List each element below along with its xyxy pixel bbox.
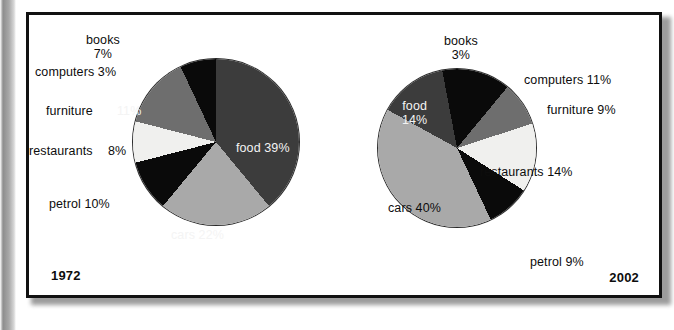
slice-label-food-name-2002: food: [402, 99, 427, 113]
slice-label-books-1972: books 7%: [86, 33, 120, 61]
slice-label-computers-1972: computers 3%: [35, 65, 116, 79]
slice-label-food-value-2002: 14%: [402, 113, 427, 127]
slice-label-furniture-value-1972: 11%: [117, 104, 141, 118]
slice-label-books-value-1972: 7%: [86, 47, 120, 61]
slice-label-furniture-2002: furniture 9%: [547, 103, 616, 117]
slice-label-restaurants-2002: restaurants 14%: [480, 165, 573, 179]
figure-root: books 7% computers 3% furniture 11% rest…: [0, 0, 674, 330]
slice-label-restaurants-value-1972: 8%: [108, 144, 126, 158]
slice-label-books-name-1972: books: [86, 33, 120, 47]
slice-label-food-2002: food 14%: [402, 99, 427, 127]
slice-label-computers-2002: computers 11%: [524, 73, 611, 87]
slice-label-furniture-1972: furniture: [46, 104, 93, 118]
slice-label-books-value-2002: 3%: [444, 48, 478, 62]
chart-pane-2002: books 3% computers 11% furniture 9% rest…: [344, 15, 659, 295]
slice-label-petrol-1972: petrol 10%: [49, 197, 110, 211]
slice-label-petrol-2002: petrol 9%: [530, 255, 584, 269]
slice-label-books-name-2002: books: [444, 34, 478, 48]
chart-pane-1972: books 7% computers 3% furniture 11% rest…: [29, 15, 344, 295]
slice-label-food-1972: food 39%: [236, 141, 290, 155]
year-label-1972: 1972: [51, 268, 81, 283]
slice-label-restaurants-1972: restaurants: [29, 144, 93, 158]
page-gutter-strip: [0, 0, 16, 330]
slice-label-books-2002: books 3%: [444, 34, 478, 62]
year-label-2002: 2002: [609, 270, 639, 285]
figure-frame: books 7% computers 3% furniture 11% rest…: [26, 12, 662, 298]
slice-label-cars-1972: cars 22%: [171, 228, 224, 242]
slice-label-cars-2002: cars 40%: [388, 201, 441, 215]
